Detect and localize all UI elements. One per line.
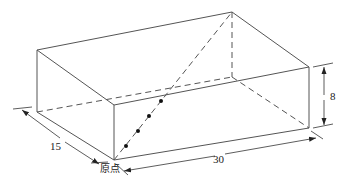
edge-top-right [232, 12, 309, 67]
width-label: 15 [50, 141, 61, 152]
edge-top-front [114, 67, 309, 105]
height-label: 8 [330, 91, 336, 102]
edge-bottom-left [37, 112, 114, 160]
width-dimension [13, 107, 108, 164]
hidden-edge-bottom-back [37, 77, 232, 112]
origin-label: 原点 [100, 164, 120, 174]
length-label: 30 [213, 154, 224, 165]
hidden-edge-bottom-right [232, 77, 309, 128]
edge-top-left [37, 50, 114, 105]
box-diagram [0, 0, 343, 183]
edge-top-back [37, 12, 232, 50]
diagonal-line [114, 12, 232, 160]
